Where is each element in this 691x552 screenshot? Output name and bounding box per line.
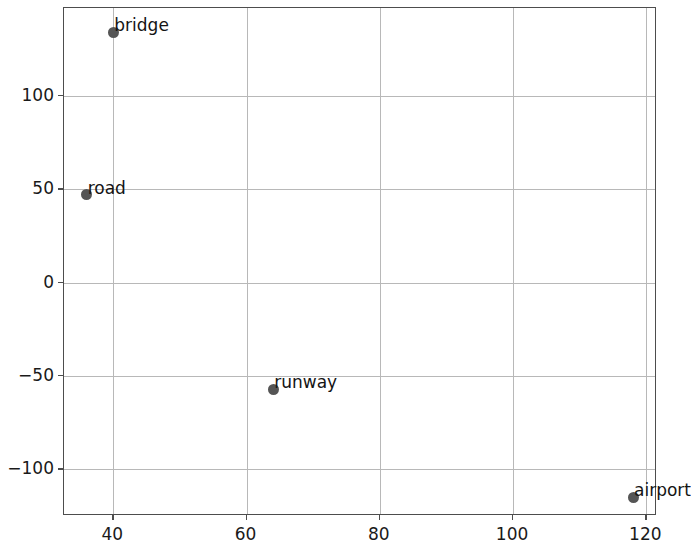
scatter-point-label: bridge [114, 15, 169, 35]
y-tick-mark [58, 95, 63, 96]
y-tick-label: 0 [43, 272, 54, 292]
x-gridline [513, 8, 514, 514]
y-tick-mark [58, 282, 63, 283]
y-tick-mark [58, 468, 63, 469]
x-tick-mark [379, 515, 380, 520]
y-tick-label: −50 [18, 365, 54, 385]
y-tick-mark [58, 188, 63, 189]
y-tick-label: 50 [32, 178, 54, 198]
x-tick-mark [645, 515, 646, 520]
x-tick-mark [112, 515, 113, 520]
x-gridline [247, 8, 248, 514]
y-tick-label: −100 [7, 458, 54, 478]
x-tick-label: 120 [629, 524, 661, 544]
y-gridline [64, 189, 655, 190]
x-tick-mark [246, 515, 247, 520]
x-tick-label: 60 [235, 524, 257, 544]
x-gridline [380, 8, 381, 514]
y-gridline [64, 376, 655, 377]
x-gridline [646, 8, 647, 514]
x-tick-mark [512, 515, 513, 520]
plot-area [63, 7, 656, 515]
y-gridline [64, 469, 655, 470]
y-gridline [64, 96, 655, 97]
x-tick-label: 80 [368, 524, 390, 544]
x-tick-label: 40 [101, 524, 123, 544]
y-gridline [64, 283, 655, 284]
scatter-point-label: runway [274, 372, 337, 392]
scatter-point-label: road [88, 178, 126, 198]
y-tick-label: 100 [22, 85, 54, 105]
x-gridline [113, 8, 114, 514]
y-tick-mark [58, 375, 63, 376]
scatter-point-label: airport [634, 480, 691, 500]
x-tick-label: 100 [496, 524, 528, 544]
